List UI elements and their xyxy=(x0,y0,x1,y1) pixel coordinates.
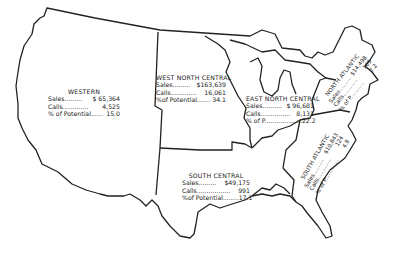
potential-row: % of P...................22.2 xyxy=(246,117,314,124)
region-western: WESTERN Sales.........$ 65,364 Calls....… xyxy=(48,88,120,118)
sales-row: Sales.........$49,175 xyxy=(182,179,250,186)
border-sc-sa xyxy=(283,168,296,202)
potential-row: %of Potential........17.1 xyxy=(182,194,250,201)
region-name: EAST NORTH CENTRAL xyxy=(246,95,314,102)
potential-row: %of Potential.......34.1 xyxy=(156,96,226,103)
region-name: WEST NORTH CENTRAL xyxy=(156,74,226,81)
border-western-sc xyxy=(156,148,160,195)
calls-row: Calls.............4,525 xyxy=(48,103,120,110)
lake-shore xyxy=(230,40,326,78)
calls-row: Calls.................991 xyxy=(182,187,250,194)
region-name: WESTERN xyxy=(48,88,120,95)
calls-row: Calls...............8,131 xyxy=(246,110,314,117)
region-south-central: SOUTH CENTRAL Sales.........$49,175 Call… xyxy=(182,172,250,202)
national-outline xyxy=(16,8,378,238)
lake-michigan xyxy=(250,58,296,96)
region-west-north-central: WEST NORTH CENTRAL Sales.........$163,63… xyxy=(156,74,226,104)
sales-row: Sales..........$ 96,681 xyxy=(246,102,314,109)
border-wnc-sc xyxy=(160,142,252,150)
sales-row: Sales.........$ 65,364 xyxy=(48,95,120,102)
sales-row: Sales.........$163,639 xyxy=(156,81,226,88)
border-enc-east xyxy=(312,110,350,115)
potential-row: % of Potential......15.0 xyxy=(48,110,120,117)
us-sales-regions-map xyxy=(0,0,402,264)
calls-row: Calls.............16,061 xyxy=(156,89,226,96)
region-name: SOUTH CENTRAL xyxy=(182,172,250,179)
region-east-north-central: EAST NORTH CENTRAL Sales..........$ 96,6… xyxy=(246,95,314,125)
